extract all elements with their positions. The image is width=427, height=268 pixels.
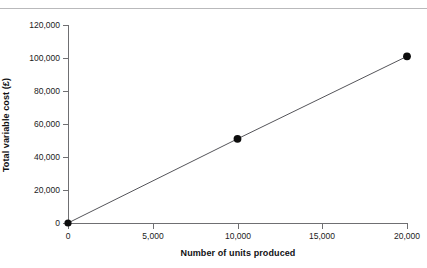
y-axis-title: Total variable cost (£) bbox=[1, 77, 11, 171]
data-series-layer bbox=[0, 0, 427, 268]
y-axis-title-wrapper: Total variable cost (£) bbox=[0, 25, 12, 224]
data-point-marker bbox=[403, 52, 411, 60]
figure-container: Figure 120,000 100,000 80,000 60,000 40,… bbox=[0, 0, 427, 268]
data-point-marker bbox=[64, 219, 71, 226]
data-point-marker bbox=[234, 135, 242, 143]
chart-plot-area: 120,000 100,000 80,000 60,000 40,000 20,… bbox=[0, 0, 427, 268]
x-axis-title: Number of units produced bbox=[68, 248, 408, 258]
